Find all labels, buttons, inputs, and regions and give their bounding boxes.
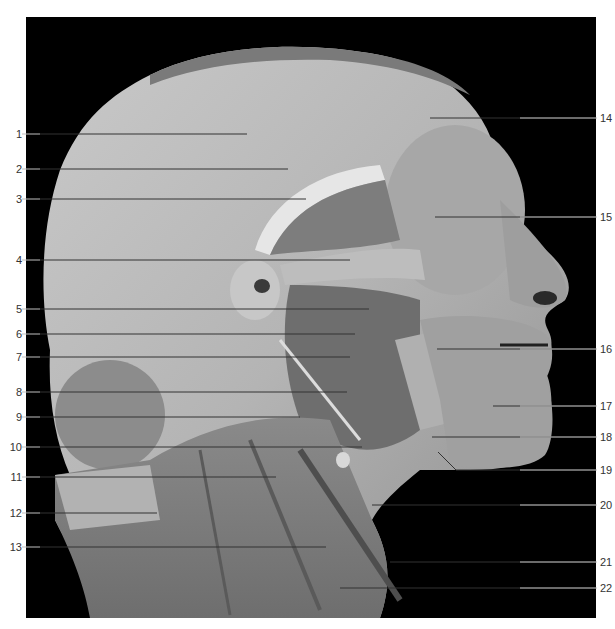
label-18: 18 [600, 431, 612, 443]
leader-line-19-diagonal [438, 452, 456, 470]
label-2: 2 [6, 163, 22, 175]
label-17: 17 [600, 400, 612, 412]
label-6: 6 [6, 328, 22, 340]
label-22: 22 [600, 582, 612, 594]
label-7: 7 [6, 351, 22, 363]
label-16: 16 [600, 343, 612, 355]
label-10: 10 [6, 441, 22, 453]
label-12: 12 [6, 507, 22, 519]
leader-lines [0, 0, 615, 629]
label-1: 1 [6, 128, 22, 140]
label-14: 14 [600, 112, 612, 124]
anatomy-figure: 12345678910111213141516171819202122 [0, 0, 615, 629]
label-21: 21 [600, 556, 612, 568]
label-20: 20 [600, 499, 612, 511]
label-8: 8 [6, 386, 22, 398]
label-15: 15 [600, 211, 612, 223]
label-4: 4 [6, 254, 22, 266]
label-9: 9 [6, 411, 22, 423]
label-3: 3 [6, 193, 22, 205]
label-5: 5 [6, 303, 22, 315]
label-11: 11 [6, 471, 22, 483]
label-13: 13 [6, 541, 22, 553]
label-19: 19 [600, 464, 612, 476]
